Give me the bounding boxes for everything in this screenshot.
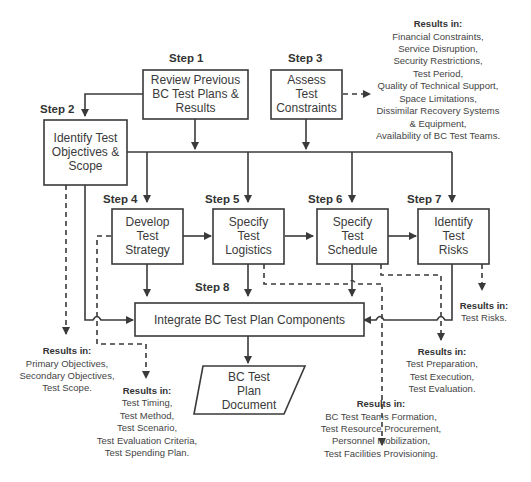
results-line: Test Facilities Provisioning. (324, 448, 438, 459)
step4-node: Step 4 Develop Test Strategy (103, 193, 183, 264)
step8-text: Integrate BC Test Plan Components (154, 313, 345, 327)
step7-text-line: Risks (439, 243, 468, 257)
step4-text-line: Strategy (125, 243, 170, 257)
results-line: Test Method, (120, 410, 174, 421)
results-line: Quality of Technical Support, (378, 80, 499, 91)
results-line: & Equipment, (409, 118, 466, 129)
results-heading: Results in: (123, 385, 172, 396)
step6-text-line: Test (341, 229, 364, 243)
step8-node: Step 8 Integrate BC Test Plan Components (135, 281, 364, 336)
step6-text-line: Schedule (327, 243, 377, 257)
results-line: Test Risks. (461, 312, 507, 323)
results-line: Test Execution, (410, 371, 474, 382)
step3-node: Step 3 Assess Test Constraints (271, 52, 342, 119)
results-line: Service Disruption, (398, 43, 478, 54)
step1-label: Step 1 (169, 52, 204, 64)
results-line: Test Scope. (42, 382, 92, 393)
step5-text-line: Specify (229, 215, 268, 229)
step7-node: Step 7 Identify Test Risks (407, 193, 489, 264)
results-line: Test Preparation, (406, 358, 478, 369)
results-line: Test Period, (413, 68, 463, 79)
step6-label: Step 6 (308, 193, 343, 205)
bc-test-plan-flowchart: Step 1 Review Previous BC Test Plans & R… (0, 0, 531, 482)
step1-text-line: BC Test Plans & (152, 87, 238, 101)
results-line: Personnel Mobilization, (332, 435, 430, 446)
step2-text-line: Objectives & (52, 145, 119, 159)
results-line: BC Test Teams Formation, (325, 411, 437, 422)
step2-label: Step 2 (40, 103, 75, 115)
results-line: Test Evaluation. (408, 383, 475, 394)
results-step4: Results in: Test Timing, Test Method, Te… (97, 385, 197, 458)
step5-text-line: Test (237, 229, 260, 243)
step6-text-line: Specify (333, 215, 372, 229)
step4-label: Step 4 (103, 193, 138, 205)
step5-node: Step 5 Specify Test Logistics (205, 193, 284, 264)
results-step2: Results in: Primary Objectives, Secondar… (19, 345, 114, 393)
results-line: Space Limitations, (399, 93, 477, 104)
results-step3: Results in: Financial Constraints, Servi… (376, 18, 500, 141)
results-line: Test Evaluation Criteria, (97, 435, 197, 446)
results-heading: Results in: (414, 18, 463, 29)
results-line: Availability of BC Test Teams. (376, 130, 500, 141)
results-line: Test Spending Plan. (105, 447, 190, 458)
step7-text-line: Test (442, 229, 465, 243)
results-heading: Results in: (43, 345, 92, 356)
results-heading: Results in: (460, 300, 509, 311)
document-text-line: Plan (237, 384, 261, 398)
step1-text-line: Review Previous (151, 73, 240, 87)
results-heading: Results in: (357, 398, 406, 409)
step1-node: Step 1 Review Previous BC Test Plans & R… (143, 52, 248, 119)
results-line: Security Restrictions, (393, 55, 482, 66)
step3-text-line: Test (295, 87, 318, 101)
step1-text-line: Results (175, 101, 215, 115)
results-step6: Results in: Test Preparation, Test Execu… (406, 346, 478, 394)
step7-label: Step 7 (407, 193, 442, 205)
document-text-line: BC Test (228, 370, 270, 384)
step5-label: Step 5 (205, 193, 240, 205)
results-line: Test Timing, (122, 397, 173, 408)
results-line: Test Scenario, (117, 422, 177, 433)
step6-node: Step 6 Specify Test Schedule (308, 193, 388, 264)
step4-text-line: Develop (125, 215, 169, 229)
step4-text-line: Test (136, 229, 159, 243)
results-heading: Results in: (418, 346, 467, 357)
step3-text-line: Constraints (276, 101, 337, 115)
step2-text-line: Identify Test (54, 131, 118, 145)
step5-text-line: Logistics (225, 243, 272, 257)
document-text-line: Document (222, 398, 277, 412)
step3-text-line: Assess (287, 73, 326, 87)
results-line: Dissimilar Recovery Systems (377, 105, 500, 116)
step8-label: Step 8 (195, 281, 230, 293)
step2-node: Step 2 Identify Test Objectives & Scope (40, 103, 127, 185)
results-step5: Results in: BC Test Teams Formation, Tes… (321, 398, 441, 459)
step7-text-line: Identify (434, 215, 473, 229)
results-line: Test Resource Procurement, (321, 423, 441, 434)
results-line: Secondary Objectives, (19, 370, 114, 381)
bc-test-plan-document: BC Test Plan Document (194, 366, 305, 414)
step3-label: Step 3 (288, 52, 323, 64)
results-step7: Results in: Test Risks. (460, 300, 509, 323)
results-line: Financial Constraints, (392, 31, 483, 42)
step2-text-line: Scope (68, 159, 102, 173)
results-line: Primary Objectives, (26, 358, 108, 369)
